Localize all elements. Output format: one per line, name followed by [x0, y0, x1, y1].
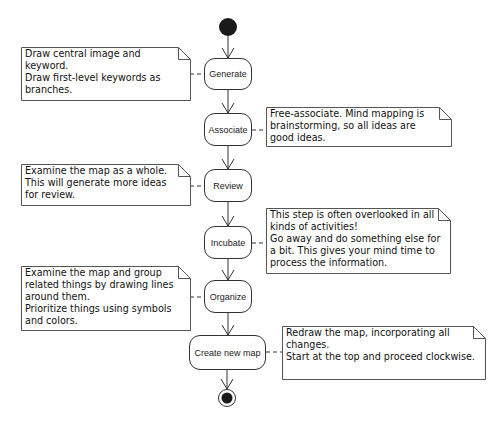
note-line: kinds of activities!: [270, 221, 447, 233]
note-create-new-map: Redraw the map, incorporating all change…: [283, 326, 485, 364]
note-line: for review.: [25, 189, 187, 201]
note-organize: Examine the map and group related things…: [22, 266, 190, 328]
note-line: This step is often overlooked in all: [270, 209, 447, 221]
note-line: Examine the map and group: [25, 267, 187, 279]
activity-associate: Associate: [204, 113, 252, 146]
note-generate: Draw central image and keyword. Draw fir…: [22, 47, 190, 97]
activity-label: Review: [213, 181, 243, 191]
note-line: This will generate more ideas: [25, 177, 187, 189]
note-line: Prioritize things using symbols: [25, 303, 187, 315]
activity-label: Organize: [210, 292, 247, 302]
note-line: Draw central image and: [25, 48, 187, 60]
activity-label: Generate: [209, 69, 247, 79]
note-line: Draw first-level keywords as: [25, 72, 187, 84]
note-line: keyword.: [25, 60, 187, 72]
activity-label: Create new map: [194, 348, 260, 358]
note-line: around them.: [25, 291, 187, 303]
start-node: [219, 18, 237, 36]
note-line: Examine the map as a whole.: [25, 165, 187, 177]
activity-incubate: Incubate: [204, 226, 252, 259]
note-line: a bit. This gives your mind time to: [270, 245, 447, 257]
note-line: Redraw the map, incorporating all: [286, 327, 482, 339]
activity-review: Review: [204, 169, 252, 202]
note-incubate: This step is often overlooked in all kin…: [267, 208, 450, 270]
activity-label: Associate: [208, 125, 247, 135]
activity-create-new-map: Create new map: [189, 335, 266, 370]
activity-label: Incubate: [211, 238, 246, 248]
activity-generate: Generate: [204, 58, 252, 90]
note-review: Examine the map as a whole. This will ge…: [22, 164, 190, 202]
note-line: changes.: [286, 339, 482, 351]
note-line: related things by drawing lines: [25, 279, 187, 291]
note-line: and colors.: [25, 315, 187, 327]
note-line: process the information.: [270, 257, 447, 269]
note-line: brainstorming, so all ideas are: [270, 120, 448, 132]
activity-organize: Organize: [204, 280, 252, 313]
note-line: Go away and do something else for: [270, 233, 447, 245]
note-line: Start at the top and proceed clockwise.: [286, 351, 482, 363]
note-line: good ideas.: [270, 132, 448, 144]
note-associate: Free-associate. Mind mapping is brainsto…: [267, 107, 451, 145]
note-line: branches.: [25, 84, 187, 96]
note-line: Free-associate. Mind mapping is: [270, 108, 448, 120]
